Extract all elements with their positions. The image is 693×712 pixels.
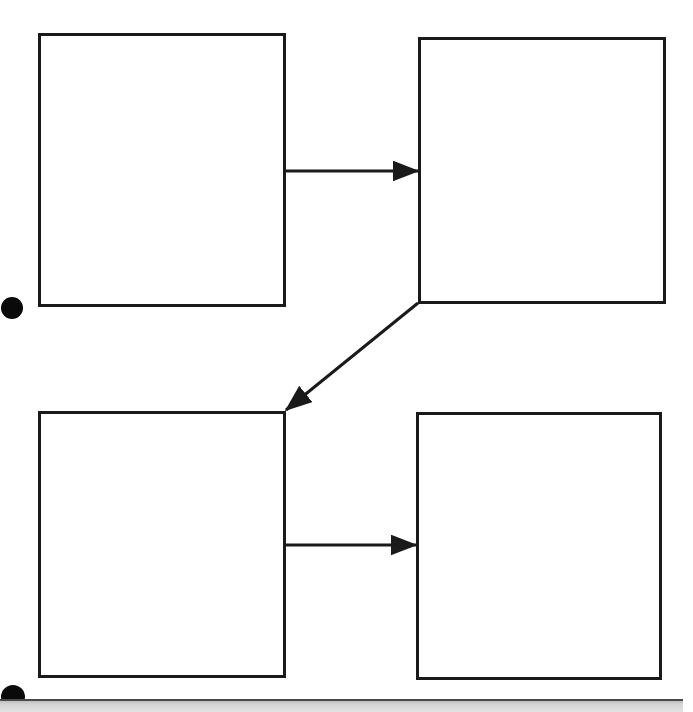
node-box-top-left[interactable] [38,33,286,307]
diagram-canvas [0,0,693,712]
node-box-bottom-left[interactable] [38,411,286,678]
connector-diagonal[interactable] [286,303,418,410]
node-box-top-right[interactable] [418,37,666,304]
bottom-bar[interactable] [0,699,683,712]
node-box-bottom-right[interactable] [416,412,662,680]
marker-dot-upper[interactable] [1,297,23,319]
